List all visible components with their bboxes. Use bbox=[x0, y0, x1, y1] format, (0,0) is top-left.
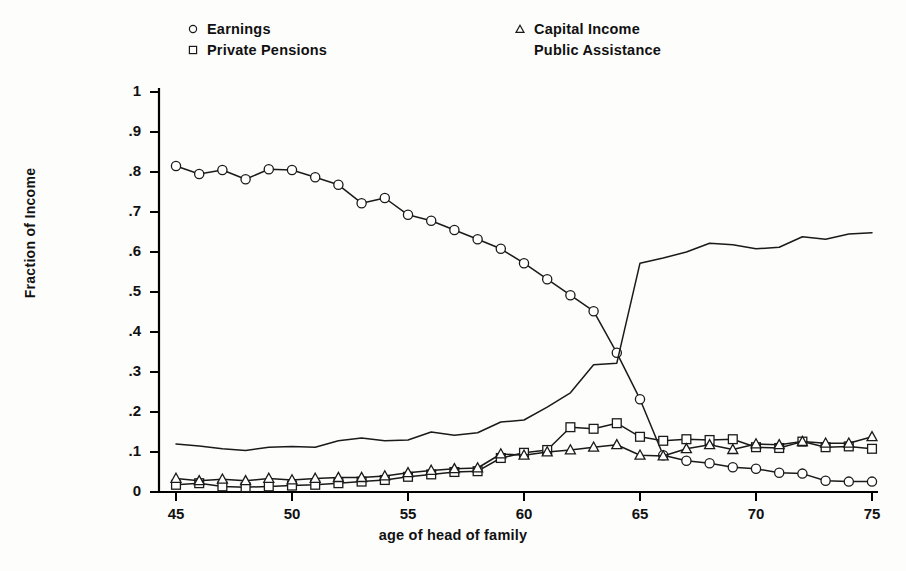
data-point bbox=[867, 477, 876, 486]
x-tick-label: 60 bbox=[504, 505, 544, 522]
y-tick-label: .6 bbox=[101, 242, 141, 259]
data-point bbox=[844, 477, 853, 486]
data-point bbox=[751, 464, 760, 473]
y-axis-ticks bbox=[150, 92, 159, 492]
data-point bbox=[705, 459, 714, 468]
y-tick-label: 1 bbox=[101, 82, 141, 99]
data-point bbox=[334, 180, 343, 189]
series-capital-income bbox=[171, 432, 877, 485]
data-point bbox=[427, 216, 436, 225]
data-point bbox=[612, 440, 622, 449]
data-point bbox=[496, 244, 505, 253]
y-tick-label: .9 bbox=[101, 122, 141, 139]
x-tick-label: 50 bbox=[272, 505, 312, 522]
data-point bbox=[218, 165, 227, 174]
data-point bbox=[217, 474, 227, 483]
data-point bbox=[728, 463, 737, 472]
data-point bbox=[171, 473, 181, 482]
data-point bbox=[403, 210, 412, 219]
data-point bbox=[241, 175, 250, 184]
data-point bbox=[728, 435, 737, 444]
x-tick-label: 75 bbox=[852, 505, 892, 522]
data-point bbox=[195, 169, 204, 178]
data-point bbox=[867, 432, 877, 441]
x-axis-ticks bbox=[176, 492, 872, 501]
x-tick-label: 70 bbox=[736, 505, 776, 522]
data-point bbox=[636, 432, 645, 441]
data-point bbox=[543, 275, 552, 284]
data-point bbox=[589, 307, 598, 316]
data-point bbox=[635, 450, 645, 459]
y-tick-label: .7 bbox=[101, 202, 141, 219]
data-point bbox=[635, 395, 644, 404]
data-point bbox=[380, 193, 389, 202]
y-tick-label: .1 bbox=[101, 442, 141, 459]
axis-lines bbox=[159, 88, 878, 492]
data-point bbox=[589, 424, 598, 433]
x-tick-label: 55 bbox=[388, 505, 428, 522]
y-tick-label: .2 bbox=[101, 402, 141, 419]
data-point bbox=[612, 419, 621, 428]
y-tick-label: .3 bbox=[101, 362, 141, 379]
data-point bbox=[566, 291, 575, 300]
data-point bbox=[450, 225, 459, 234]
y-tick-label: 0 bbox=[101, 482, 141, 499]
data-point bbox=[357, 199, 366, 208]
data-point bbox=[264, 482, 273, 491]
y-tick-label: .8 bbox=[101, 162, 141, 179]
data-point bbox=[775, 468, 784, 477]
x-tick-label: 45 bbox=[156, 505, 196, 522]
data-point bbox=[287, 165, 296, 174]
data-point bbox=[798, 469, 807, 478]
data-point bbox=[171, 161, 180, 170]
data-point bbox=[868, 444, 877, 453]
data-point bbox=[264, 473, 274, 482]
y-tick-label: .5 bbox=[101, 282, 141, 299]
x-tick-label: 65 bbox=[620, 505, 660, 522]
data-point bbox=[264, 165, 273, 174]
data-point bbox=[682, 456, 691, 465]
data-point bbox=[566, 423, 575, 432]
data-point bbox=[473, 235, 482, 244]
y-tick-label: .4 bbox=[101, 322, 141, 339]
data-point bbox=[311, 173, 320, 182]
chart-figure: Earnings Private Pensions Capital Income… bbox=[0, 0, 906, 571]
series-earnings bbox=[171, 161, 876, 486]
data-point bbox=[519, 259, 528, 268]
data-point bbox=[659, 436, 668, 445]
data-point bbox=[821, 476, 830, 485]
